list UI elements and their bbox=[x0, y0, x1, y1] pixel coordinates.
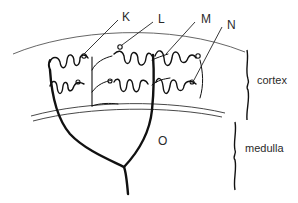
medulla-brace bbox=[234, 122, 236, 190]
label-l: L bbox=[158, 12, 165, 26]
nephron-lower-row bbox=[50, 79, 196, 94]
cortex-brace bbox=[247, 50, 249, 120]
cortex-medulla-boundary bbox=[31, 104, 225, 116]
label-k: K bbox=[122, 10, 130, 24]
leader-line-m bbox=[166, 22, 195, 54]
glomerulus-l bbox=[118, 45, 122, 49]
label-cortex: cortex bbox=[257, 74, 287, 86]
glomeruli bbox=[76, 45, 200, 84]
kidney-diagram bbox=[0, 0, 298, 203]
label-m: M bbox=[201, 12, 211, 26]
label-o: O bbox=[158, 134, 167, 148]
leader-line-k bbox=[84, 20, 118, 54]
kidney-capsule-line bbox=[13, 33, 245, 54]
nephron-upper-row bbox=[50, 51, 196, 68]
glomerulus-m bbox=[196, 54, 200, 58]
collecting-duct-tree bbox=[49, 54, 203, 194]
label-medulla: medulla bbox=[245, 142, 284, 154]
label-n: N bbox=[227, 18, 236, 32]
leader-line-l bbox=[122, 22, 153, 45]
